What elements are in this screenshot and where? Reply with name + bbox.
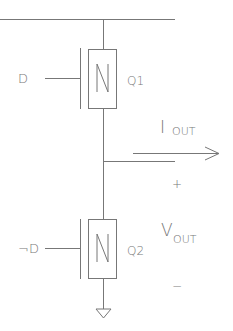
q1-gate-label: D	[18, 71, 28, 86]
transistor-q2	[45, 219, 117, 279]
q1-label: Q1	[127, 74, 144, 88]
q1-n-glyph	[97, 64, 108, 92]
svg-text:OUT: OUT	[173, 233, 197, 246]
minus-sign: −	[172, 279, 182, 293]
transistor-q1	[45, 48, 117, 109]
svg-text:OUT: OUT	[172, 125, 196, 138]
current-label: I OUT	[160, 117, 196, 138]
plus-sign: +	[172, 177, 182, 191]
ground-icon	[96, 309, 111, 318]
current-arrow-icon	[133, 147, 219, 160]
q2-n-glyph	[97, 234, 108, 262]
svg-text:V: V	[161, 220, 173, 240]
voltage-label: V OUT	[161, 220, 197, 246]
circuit-diagram: D Q1 I OUT + V OUT − ¬D Q2	[0, 0, 233, 331]
q2-gate-label: ¬D	[18, 241, 39, 256]
svg-text:I: I	[160, 117, 165, 137]
q2-label: Q2	[127, 244, 144, 258]
